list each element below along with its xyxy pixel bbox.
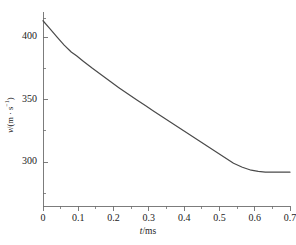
velocity-time-chart: 00.10.20.30.40.50.60.7300350400 v/(m · s…: [0, 0, 296, 245]
x-tick-label: 0.3: [135, 212, 163, 223]
x-tick-label: 0.6: [241, 212, 269, 223]
y-tick-label: 300: [7, 155, 37, 166]
x-tick-label: 0.5: [205, 212, 233, 223]
x-tick-label: 0: [29, 212, 57, 223]
y-axis-title: v/(m · s−1): [5, 83, 15, 147]
x-axis-title: t/ms: [0, 226, 296, 236]
y-tick-label: 400: [7, 30, 37, 41]
chart-series: [43, 21, 290, 172]
x-tick-label: 0.4: [170, 212, 198, 223]
chart-plot-area: [0, 0, 296, 245]
data-line-velocity: [43, 21, 290, 172]
x-tick-label: 0.7: [276, 212, 296, 223]
x-tick-label: 0.1: [64, 212, 92, 223]
x-tick-label: 0.2: [100, 212, 128, 223]
chart-ticks: [43, 18, 290, 210]
chart-axes: [43, 12, 290, 206]
